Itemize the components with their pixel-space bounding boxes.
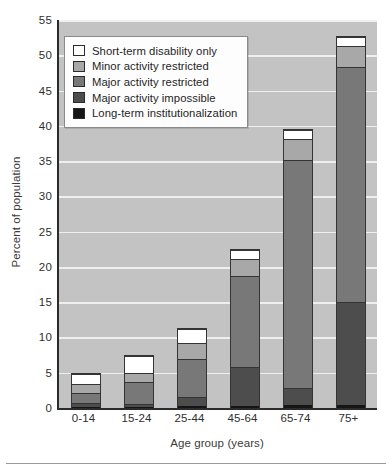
- y-axis-tick-labels: 0510152025303540455055: [20, 0, 52, 473]
- y-axis-tick-label: 10: [20, 331, 52, 343]
- stacked-bar-chart-figure: Percent of population 051015202530354045…: [0, 0, 392, 473]
- gridline: [59, 20, 377, 22]
- bar-segment: [231, 367, 259, 406]
- bar-segment: [231, 259, 259, 276]
- legend-swatch-icon: [73, 108, 85, 119]
- legend-label: Short-term disability only: [92, 45, 217, 57]
- gridline: [59, 267, 377, 269]
- bar-segment: [284, 139, 312, 160]
- legend-label: Minor activity restricted: [92, 60, 209, 72]
- bar-segment: [337, 67, 365, 302]
- bar-segment: [72, 384, 100, 393]
- x-axis-line: [57, 408, 377, 410]
- y-axis-tick-label: 25: [20, 226, 52, 238]
- gridline: [59, 161, 377, 163]
- legend-swatch-icon: [73, 45, 85, 56]
- bar-25-44: [177, 328, 207, 408]
- y-axis-tick-label: 40: [20, 120, 52, 132]
- legend-item: Minor activity restricted: [73, 59, 237, 75]
- legend-item: Major activity restricted: [73, 74, 237, 90]
- bar-segment: [125, 356, 153, 373]
- gridline: [59, 373, 377, 375]
- x-axis-title: Age group (years): [57, 437, 377, 449]
- legend-swatch-icon: [73, 76, 85, 87]
- gridline: [59, 196, 377, 198]
- legend-label: Long-term institutionalization: [92, 107, 237, 119]
- bar-segment: [337, 302, 365, 404]
- bar-segment: [284, 388, 312, 406]
- legend-swatch-icon: [73, 92, 85, 103]
- caption-text: [24, 466, 384, 473]
- y-axis-tick-label: 5: [20, 367, 52, 379]
- bar-segment: [337, 37, 365, 45]
- y-axis-tick-label: 45: [20, 85, 52, 97]
- y-axis-tick-label: 20: [20, 261, 52, 273]
- x-axis-tick-labels: 0-1415-2425-4445-6465-7475+: [57, 412, 377, 432]
- y-axis-tick-label: 30: [20, 190, 52, 202]
- bar-segment: [178, 343, 206, 359]
- bar-segment: [178, 329, 206, 343]
- bar-segment: [125, 382, 153, 403]
- y-axis-tick-label: 15: [20, 296, 52, 308]
- bar-segment: [231, 276, 259, 367]
- caption-divider: [6, 463, 386, 464]
- bar-45-64: [230, 249, 260, 408]
- legend-label: Major activity restricted: [92, 76, 209, 88]
- legend-label: Major activity impossible: [92, 92, 216, 104]
- bar-segment: [231, 250, 259, 259]
- gridline: [59, 337, 377, 339]
- y-axis-tick-label: 35: [20, 155, 52, 167]
- bar-segment: [178, 397, 206, 406]
- y-axis-tick-label: 0: [20, 402, 52, 414]
- bar-segment: [337, 46, 365, 68]
- bar-segment: [72, 374, 100, 384]
- bar-segment: [178, 359, 206, 397]
- legend-item: Short-term disability only: [73, 43, 237, 59]
- legend-swatch-icon: [73, 61, 85, 72]
- bar-segment: [72, 393, 100, 403]
- chart-legend: Short-term disability onlyMinor activity…: [64, 36, 248, 128]
- x-axis-tick-label: 75+: [314, 412, 384, 424]
- bar-0-14: [71, 373, 101, 408]
- y-axis-tick-label: 55: [20, 14, 52, 26]
- bar-segment: [284, 130, 312, 139]
- legend-item: Major activity impossible: [73, 90, 237, 106]
- bar-segment: [284, 160, 312, 388]
- gridline: [59, 302, 377, 304]
- bar-65-74: [283, 129, 313, 408]
- bar-75+: [336, 36, 366, 408]
- bar-segment: [125, 373, 153, 383]
- bar-15-24: [124, 355, 154, 408]
- gridline: [59, 232, 377, 234]
- y-axis-tick-label: 50: [20, 49, 52, 61]
- legend-item: Long-term institutionalization: [73, 105, 237, 121]
